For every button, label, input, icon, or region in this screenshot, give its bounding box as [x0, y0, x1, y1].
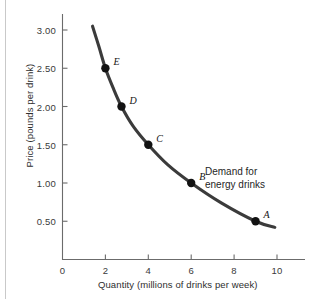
- x-tick-label: 10: [272, 265, 283, 276]
- demand-curve-annotation: Demand for energy drinks: [205, 166, 265, 191]
- data-point-dots: [101, 64, 260, 225]
- y-tick-label: 2.00: [20, 101, 56, 112]
- demand-curve-figure: Price (pounds per drink) Quantity (milli…: [0, 0, 317, 299]
- data-point-a: [251, 217, 259, 225]
- data-point-label-a: A: [264, 209, 270, 220]
- data-point-label-e: E: [113, 56, 119, 67]
- data-point-b: [187, 179, 195, 187]
- y-tick-label: 2.50: [20, 63, 56, 74]
- x-tick-label: 2: [103, 265, 108, 276]
- annotation-line-1: Demand for: [205, 166, 265, 179]
- x-tick-label: 4: [146, 265, 151, 276]
- data-point-e: [101, 64, 109, 72]
- y-tick-label: 0.50: [20, 216, 56, 227]
- y-tick-label: 1.50: [20, 139, 56, 150]
- annotation-line-2: energy drinks: [205, 179, 265, 192]
- data-point-c: [144, 141, 152, 149]
- x-tick-label: 8: [231, 265, 236, 276]
- x-tick-label: 0: [60, 265, 65, 276]
- x-tick-label: 6: [188, 265, 193, 276]
- data-point-d: [117, 102, 125, 110]
- data-point-label-d: D: [129, 95, 136, 106]
- x-axis-title: Quantity (millions of drinks per week): [98, 279, 258, 290]
- y-tick-label: 1.00: [20, 178, 56, 189]
- tick-marks: [63, 30, 278, 260]
- y-tick-label: 3.00: [20, 25, 56, 36]
- data-point-label-c: C: [156, 133, 163, 144]
